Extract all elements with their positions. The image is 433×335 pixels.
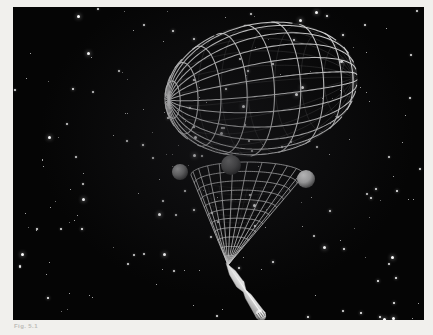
ellipsoid-wire-front (251, 95, 275, 156)
ellipsoid-wire-front (197, 99, 220, 146)
sphere-right (297, 170, 315, 188)
cone-generator (228, 162, 262, 265)
ellipsoid-wire-front (169, 100, 342, 149)
space-scene-illustration (13, 7, 424, 320)
ellipsoid-wire-front (244, 25, 275, 94)
sphere-left (172, 164, 188, 180)
ellipsoid-wire-front (169, 25, 336, 100)
spacecraft (222, 260, 269, 320)
ellipsoid-wire-back (182, 29, 353, 78)
ellipsoid-wire-back (198, 35, 222, 154)
rocket-assembly (222, 260, 269, 320)
figure-plate (13, 7, 424, 320)
ellipsoid-front-wires (165, 22, 357, 156)
ellipsoid-back-wires (165, 22, 357, 156)
projection-cone (191, 162, 304, 265)
cone-generator (228, 169, 296, 266)
ellipsoid-wire-back (248, 22, 279, 153)
rocket-highlight (228, 265, 260, 313)
figure-number: Fig. 5.1 (14, 323, 38, 329)
sphere-center (221, 155, 241, 175)
scanned-page: Fig. 5.1 (0, 0, 433, 335)
figure-caption: Fig. 5.1 (14, 322, 38, 330)
